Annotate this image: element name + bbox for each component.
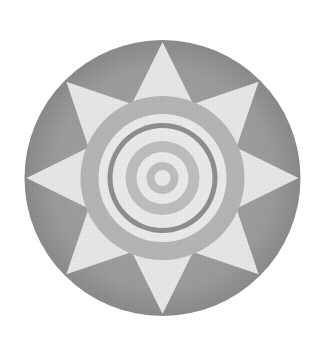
sun-emblem: [0, 0, 325, 348]
texture-overlay: [25, 40, 301, 316]
halftone-texture: [25, 40, 301, 316]
